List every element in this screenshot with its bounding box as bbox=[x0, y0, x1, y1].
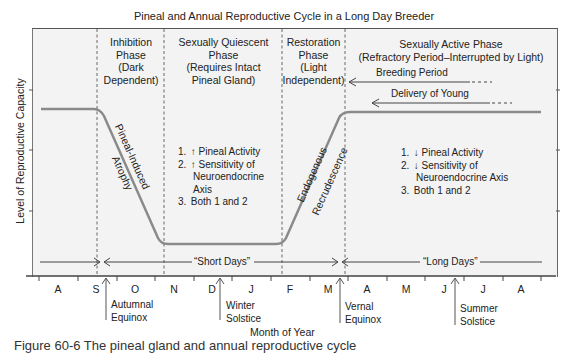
list-text: Neuroendocrine Axis bbox=[416, 172, 508, 183]
list-item: 2. ↑ Sensitivity of bbox=[178, 159, 278, 172]
list-item: 3. Both 1 and 2 bbox=[178, 196, 278, 209]
event-line: Summer bbox=[460, 302, 498, 315]
phase-line: Sexually Active Phase bbox=[346, 38, 556, 51]
list-text: Axis bbox=[193, 184, 212, 195]
month-label: A bbox=[48, 283, 68, 295]
phase-line: (Refractory Period–Interrupted by Light) bbox=[346, 51, 556, 64]
list-text: Both 1 and 2 bbox=[414, 185, 471, 196]
list-text: Neuroendocrine bbox=[193, 171, 264, 182]
phase-line: Phase bbox=[282, 49, 345, 62]
list-item: 1. ↓ Pineal Activity bbox=[401, 147, 551, 160]
quiescent-mechanism-list: 1. ↑ Pineal Activity 2. ↑ Sensitivity of… bbox=[178, 146, 278, 209]
month-label: J bbox=[241, 283, 261, 295]
event-vernal-equinox: Vernal Equinox bbox=[345, 300, 381, 326]
down-arrow-icon: ↓ bbox=[414, 147, 419, 158]
month-label: S bbox=[86, 283, 106, 295]
active-mechanism-list: 1. ↓ Pineal Activity 2. ↓ Sensitivity of… bbox=[401, 147, 551, 197]
list-num: 2. bbox=[178, 159, 188, 172]
y-axis-label: Level of Reproductive Capacity bbox=[14, 66, 26, 236]
phase-line: Inhibition bbox=[98, 36, 164, 49]
list-num: 3. bbox=[178, 196, 188, 209]
event-line: Autumnal bbox=[111, 298, 153, 311]
month-label: F bbox=[280, 283, 300, 295]
down-arrow-icon: ↓ bbox=[414, 160, 419, 171]
phase-inhibition-label: Inhibition Phase (Dark Dependent) bbox=[98, 36, 164, 86]
list-num: 3. bbox=[401, 185, 411, 198]
list-item: Neuroendocrine Axis bbox=[401, 172, 551, 185]
list-text: Pineal Activity bbox=[199, 146, 261, 157]
list-text: Both 1 and 2 bbox=[191, 196, 248, 207]
phase-line: Restoration bbox=[282, 36, 345, 49]
month-label: M bbox=[318, 283, 338, 295]
month-label: A bbox=[511, 283, 531, 295]
month-label: A bbox=[357, 283, 377, 295]
phase-line: Independent) bbox=[282, 74, 345, 87]
month-label: D bbox=[202, 283, 222, 295]
list-item: 3. Both 1 and 2 bbox=[401, 185, 551, 198]
list-text: Sensitivity of bbox=[422, 160, 478, 171]
month-label: O bbox=[125, 283, 145, 295]
phase-line: (Requires Intact bbox=[165, 61, 282, 74]
list-item: 1. ↑ Pineal Activity bbox=[178, 146, 278, 159]
event-winter-solstice: Winter Solstice bbox=[226, 299, 261, 325]
event-line: Vernal bbox=[345, 300, 381, 313]
phase-active-label: Sexually Active Phase (Refractory Period… bbox=[346, 38, 556, 63]
phase-line: Sexually Quiescent bbox=[165, 36, 282, 49]
event-line: Solstice bbox=[460, 315, 498, 328]
phase-line: (Light bbox=[282, 61, 345, 74]
up-arrow-icon: ↑ bbox=[191, 146, 196, 157]
phase-restoration-label: Restoration Phase (Light Independent) bbox=[282, 36, 345, 86]
list-item: Neuroendocrine bbox=[178, 171, 278, 184]
phase-quiescent-label: Sexually Quiescent Phase (Requires Intac… bbox=[165, 36, 282, 86]
phase-line: (Dark bbox=[98, 61, 164, 74]
event-line: Equinox bbox=[345, 313, 381, 326]
month-label: J bbox=[473, 283, 493, 295]
list-item: Axis bbox=[178, 184, 278, 197]
breeding-period-label: Breeding Period bbox=[376, 67, 448, 80]
month-label: M bbox=[396, 283, 416, 295]
short-days-label: “Short Days” bbox=[193, 256, 251, 269]
event-autumnal-equinox: Autumnal Equinox bbox=[111, 298, 153, 324]
event-line: Solstice bbox=[226, 312, 261, 325]
x-axis-label: Month of Year bbox=[250, 326, 315, 338]
phase-line: Phase bbox=[165, 49, 282, 62]
delivery-of-young-label: Delivery of Young bbox=[391, 88, 469, 101]
phase-line: Phase bbox=[98, 49, 164, 62]
phase-line: Pineal Gland) bbox=[165, 74, 282, 87]
list-item: 2. ↓ Sensitivity of bbox=[401, 160, 551, 173]
phase-line: Dependent) bbox=[98, 74, 164, 87]
long-days-label: “Long Days” bbox=[422, 256, 478, 269]
list-num: 2. bbox=[401, 160, 411, 173]
list-text: Sensitivity of bbox=[199, 159, 255, 170]
month-label: N bbox=[164, 283, 184, 295]
list-text: Pineal Activity bbox=[422, 147, 484, 158]
event-line: Equinox bbox=[111, 311, 153, 324]
event-summer-solstice: Summer Solstice bbox=[460, 302, 498, 328]
list-num: 1. bbox=[401, 147, 411, 160]
figure-caption: Figure 60-6 The pineal gland and annual … bbox=[14, 338, 356, 353]
event-line: Winter bbox=[226, 299, 261, 312]
list-num: 1. bbox=[178, 146, 188, 159]
up-arrow-icon: ↑ bbox=[191, 159, 196, 170]
month-label: J bbox=[434, 283, 454, 295]
